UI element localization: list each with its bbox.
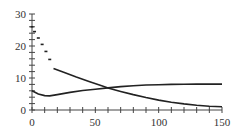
- line-chart: 0 50 100 150 0 10 20 30: [0, 0, 243, 136]
- y-tick-label-0: 0: [21, 104, 27, 116]
- y-axis: [29, 14, 35, 110]
- series-layer: [31, 27, 223, 107]
- y-tick-label-10: 10: [15, 72, 27, 84]
- x-tick-label-150: 150: [214, 116, 231, 128]
- y-tick-label-20: 20: [15, 40, 27, 52]
- y-tick-label-30: 30: [15, 8, 27, 20]
- x-tick-label-0: 0: [29, 116, 35, 128]
- x-tick-label-100: 100: [151, 116, 168, 128]
- decaying-curve: [54, 68, 223, 106]
- x-axis: [32, 107, 222, 113]
- x-tick-label-50: 50: [90, 116, 102, 128]
- rising-curve: [32, 84, 222, 96]
